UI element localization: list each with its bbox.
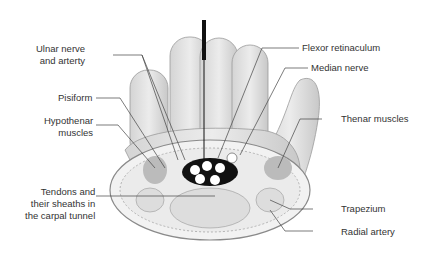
wrist-cross-section: [110, 140, 310, 240]
label-median-nerve: Median nerve: [311, 62, 369, 74]
label-trapezium: Trapezium: [341, 203, 386, 215]
label-flexor-retinaculum: Flexor retinaculum: [302, 42, 380, 54]
label-ulnar-nerve-and-artery: Ulnar nerve and arterty: [36, 43, 85, 67]
label-pisiform: Pisiform: [58, 92, 92, 104]
label-radial-artery: Radial artery: [341, 226, 395, 238]
label-tendons-carpal-tunnel: Tendons and their sheaths in the carpal …: [25, 186, 95, 222]
needle-probe: [202, 20, 206, 60]
label-hypothenar-muscles: Hypothenar muscles: [44, 115, 93, 139]
label-thenar-muscles: Thenar muscles: [341, 113, 409, 125]
